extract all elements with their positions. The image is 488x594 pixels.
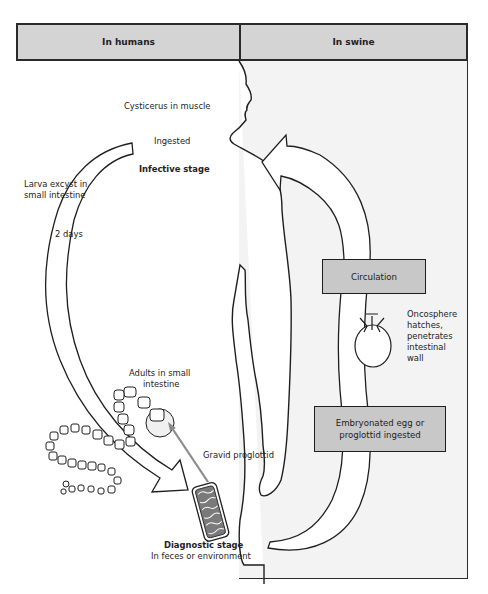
adults-label-line1: Adults in small xyxy=(129,368,190,379)
oncosphere-label-line5: wall xyxy=(407,353,424,364)
circulation-box: Circulation xyxy=(322,259,426,294)
larva-label-line2: small intestine xyxy=(24,190,85,201)
oncosphere-label-line2: hatches, xyxy=(407,320,443,331)
gravid-proglottid xyxy=(191,482,230,543)
oncosphere-label-line1: Oncosphere xyxy=(407,309,457,320)
infective-stage-label: Infective stage xyxy=(139,164,210,175)
adult-tapeworm xyxy=(46,387,174,494)
cysticercus-label: Cysticerus in muscle xyxy=(124,101,211,112)
days-label: 2 days xyxy=(55,229,83,240)
egg-label-line1: Embryonated egg or xyxy=(336,417,424,429)
oncosphere-label-line4: intestinal xyxy=(407,342,446,353)
feces-label: In feces or environment xyxy=(151,551,251,562)
life-cycle-artwork xyxy=(0,0,488,594)
larva-label-line1: Larva excyst in xyxy=(24,179,87,190)
adults-label-line2: intestine xyxy=(143,379,180,390)
ingested-label: Ingested xyxy=(154,136,190,147)
oncosphere-egg xyxy=(355,325,391,367)
diagnostic-stage-label: Diagnostic stage xyxy=(164,540,243,551)
oncosphere-label-line3: penetrates xyxy=(407,331,453,342)
egg-label-line2: proglottid ingested xyxy=(339,429,421,441)
embryonated-egg-box: Embryonated egg or proglottid ingested xyxy=(314,406,446,452)
circulation-label: Circulation xyxy=(351,271,397,283)
gravid-proglottid-label: Gravid proglottid xyxy=(203,450,274,461)
